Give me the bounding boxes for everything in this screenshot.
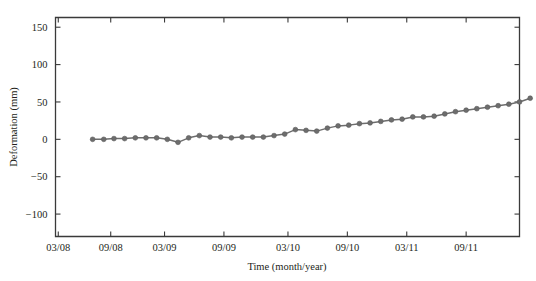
data-point-marker — [314, 129, 319, 134]
x-tick-label: 03/10 — [276, 242, 300, 253]
x-tick-label: 03/11 — [395, 242, 419, 253]
y-tick-label: 50 — [37, 97, 48, 108]
data-point-marker — [176, 140, 181, 145]
y-tick-label: −100 — [26, 209, 48, 220]
data-point-marker — [165, 137, 170, 142]
y-tick-label: 150 — [32, 22, 48, 33]
data-point-marker — [336, 123, 341, 128]
chart-figure: 150100500−50−100 03/0809/0803/0909/0903/… — [0, 0, 536, 281]
data-point-marker — [90, 137, 95, 142]
x-tick-label: 09/09 — [212, 242, 236, 253]
data-point-marker — [122, 136, 127, 141]
data-point-marker — [261, 135, 266, 140]
x-tick-label: 09/10 — [335, 242, 359, 253]
x-tick-label: 09/11 — [454, 242, 478, 253]
data-point-marker — [485, 105, 490, 110]
data-point-marker — [357, 121, 362, 126]
data-point-marker — [112, 136, 117, 141]
data-point-marker — [144, 135, 149, 140]
data-point-marker — [154, 135, 159, 140]
data-point-marker — [506, 102, 511, 107]
data-point-marker — [496, 103, 501, 108]
data-point-marker — [528, 96, 533, 101]
data-point-marker — [218, 135, 223, 140]
data-point-marker — [304, 128, 309, 133]
data-point-marker — [517, 100, 522, 105]
data-point-marker — [272, 133, 277, 138]
y-tick-label: 100 — [32, 59, 48, 70]
data-point-marker — [346, 123, 351, 128]
data-point-marker — [474, 106, 479, 111]
data-point-marker — [389, 118, 394, 123]
x-axis-title: Time (month/year) — [247, 261, 327, 273]
x-tick-label: 03/09 — [153, 242, 177, 253]
data-point-marker — [208, 135, 213, 140]
y-tick-label: 0 — [42, 134, 47, 145]
x-tick-label: 03/08 — [46, 242, 70, 253]
deformation-time-series-chart: 150100500−50−100 03/0809/0803/0909/0903/… — [0, 0, 536, 281]
data-point-marker — [378, 119, 383, 124]
chart-background — [0, 0, 536, 281]
data-point-marker — [368, 120, 373, 125]
data-point-marker — [250, 135, 255, 140]
data-point-marker — [410, 115, 415, 120]
data-point-marker — [133, 135, 138, 140]
data-point-marker — [293, 127, 298, 132]
data-point-marker — [464, 108, 469, 113]
data-point-marker — [421, 115, 426, 120]
data-point-marker — [197, 133, 202, 138]
y-axis-title: Deformation (mm) — [8, 87, 20, 167]
data-point-marker — [240, 135, 245, 140]
data-point-marker — [186, 135, 191, 140]
data-point-marker — [400, 117, 405, 122]
y-tick-label: −50 — [31, 171, 47, 182]
data-point-marker — [442, 112, 447, 117]
data-point-marker — [432, 114, 437, 119]
data-point-marker — [229, 135, 234, 140]
data-point-marker — [325, 126, 330, 131]
data-point-marker — [453, 109, 458, 114]
x-tick-label: 09/08 — [99, 242, 123, 253]
data-point-marker — [282, 132, 287, 137]
data-point-marker — [101, 137, 106, 142]
